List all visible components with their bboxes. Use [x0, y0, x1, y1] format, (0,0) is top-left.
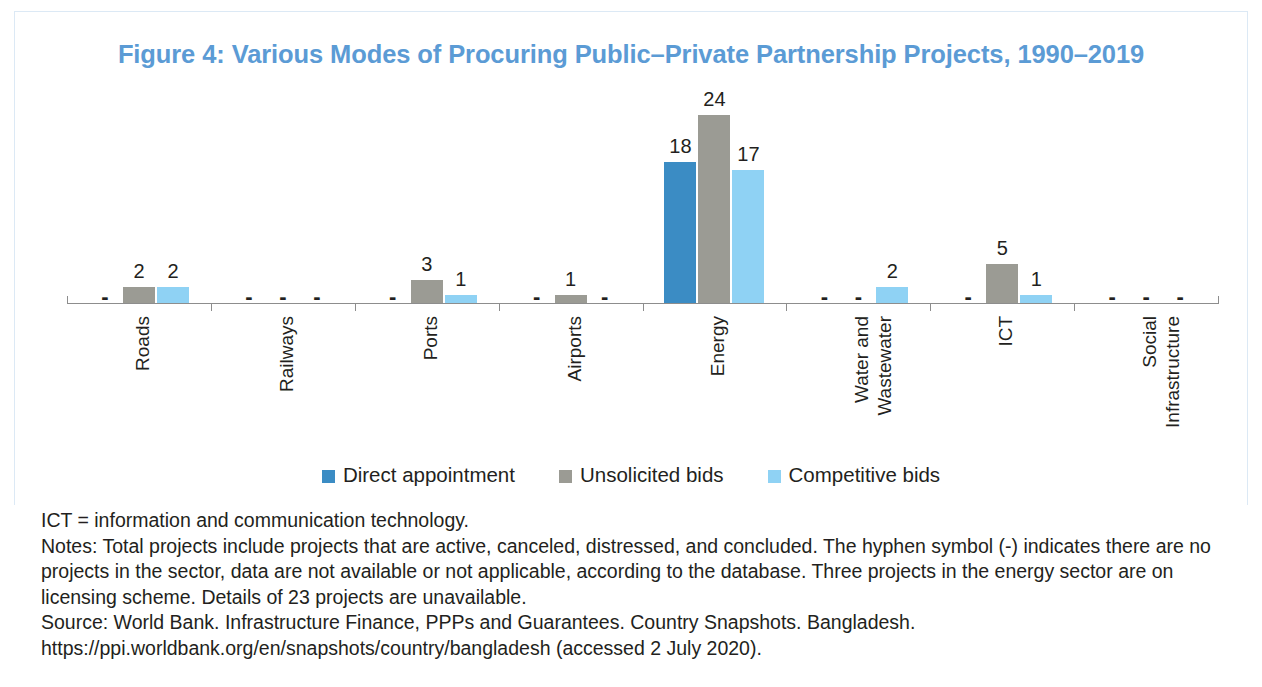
legend-item: Direct appointment: [322, 463, 515, 487]
bar-slot: -: [88, 80, 122, 303]
bar-slot: 5: [985, 80, 1019, 303]
bar-slot: 18: [663, 80, 697, 303]
category-label-line: Social: [1139, 316, 1161, 368]
legend-label: Competitive bids: [789, 463, 941, 487]
category-label-line: Railways: [276, 316, 298, 392]
bar-value-label: 2: [156, 260, 190, 283]
bar: [876, 287, 908, 303]
bar-slot: -: [232, 80, 266, 303]
missing-value-dash: -: [841, 286, 875, 308]
axis-tick: [786, 303, 787, 311]
bar-slot: -: [1095, 80, 1129, 303]
chart-legend: Direct appointmentUnsolicited bidsCompet…: [0, 463, 1262, 487]
category-label-line: Roads: [132, 316, 154, 371]
missing-value-dash: -: [1129, 286, 1163, 308]
bar: [1020, 295, 1052, 303]
bar-slot: -: [1163, 80, 1197, 303]
bar-slot: 3: [410, 80, 444, 303]
note-body: Notes: Total projects include projects t…: [41, 534, 1241, 611]
legend-swatch-icon: [559, 470, 572, 483]
bar-slot: -: [300, 80, 334, 303]
bar-value-label: 1: [444, 268, 478, 291]
bar-group: 182417: [663, 80, 765, 303]
chart-plot-area: -22----31-1-182417--2-51--- RoadsRailway…: [0, 0, 1262, 460]
missing-value-dash: -: [520, 286, 554, 308]
missing-value-dash: -: [376, 286, 410, 308]
bar: [445, 295, 477, 303]
missing-value-dash: -: [588, 286, 622, 308]
legend-item: Unsolicited bids: [559, 463, 724, 487]
axis-end-tick: [67, 296, 68, 304]
legend-swatch-icon: [322, 470, 335, 483]
axis-tick: [930, 303, 931, 311]
missing-value-dash: -: [1163, 286, 1197, 308]
legend-label: Direct appointment: [343, 463, 515, 487]
category-label-line: ICT: [995, 316, 1017, 347]
bar-value-label: 1: [554, 268, 588, 291]
figure-notes: ICT = information and communication tech…: [41, 508, 1241, 662]
missing-value-dash: -: [232, 286, 266, 308]
category-label-line: Infrastructure: [1162, 316, 1184, 428]
bar-slot: 2: [156, 80, 190, 303]
bar-slot: 1: [554, 80, 588, 303]
bar-slot: -: [807, 80, 841, 303]
category-label-line: Ports: [420, 316, 442, 360]
axis-tick: [355, 303, 356, 311]
bar-group: -51: [951, 80, 1053, 303]
bar-slot: -: [841, 80, 875, 303]
axis-tick: [499, 303, 500, 311]
category-label-line: Wastewater: [874, 316, 896, 416]
bar-slot: 2: [875, 80, 909, 303]
bar-group: -22: [88, 80, 190, 303]
bar-slot: -: [1129, 80, 1163, 303]
bar-slot: -: [951, 80, 985, 303]
missing-value-dash: -: [266, 286, 300, 308]
axis-end-tick: [1218, 296, 1219, 304]
category-label-line: Energy: [707, 316, 729, 376]
bar-value-label: 17: [731, 143, 765, 166]
missing-value-dash: -: [300, 286, 334, 308]
bar: [411, 280, 443, 303]
bar-group: --2: [807, 80, 909, 303]
bar: [986, 264, 1018, 303]
bar-slot: 1: [1019, 80, 1053, 303]
missing-value-dash: -: [807, 286, 841, 308]
bar-value-label: 1: [1019, 268, 1053, 291]
bar-slot: -: [520, 80, 554, 303]
missing-value-dash: -: [951, 286, 985, 308]
bar: [732, 170, 764, 303]
bar-slot: -: [376, 80, 410, 303]
bar-value-label: 18: [663, 135, 697, 158]
bar-value-label: 2: [122, 260, 156, 283]
bar-slot: 1: [444, 80, 478, 303]
bar-group: ---: [1095, 80, 1197, 303]
bar-group: -31: [376, 80, 478, 303]
note-abbreviation: ICT = information and communication tech…: [41, 508, 1241, 534]
bar: [123, 287, 155, 303]
bar: [157, 287, 189, 303]
bar-slot: 24: [697, 80, 731, 303]
bar-slot: 17: [731, 80, 765, 303]
axis-tick: [643, 303, 644, 311]
missing-value-dash: -: [1095, 286, 1129, 308]
bar: [664, 162, 696, 303]
bar-value-label: 5: [985, 237, 1019, 260]
bar: [555, 295, 587, 303]
legend-label: Unsolicited bids: [580, 463, 724, 487]
bar-value-label: 24: [697, 88, 731, 111]
bar: [698, 115, 730, 303]
category-label-line: Water and: [851, 316, 873, 403]
bar-group: ---: [232, 80, 334, 303]
bar-slot: -: [266, 80, 300, 303]
bar-value-label: 2: [875, 260, 909, 283]
category-label-line: Airports: [564, 316, 586, 381]
bar-slot: -: [588, 80, 622, 303]
legend-item: Competitive bids: [768, 463, 941, 487]
bar-value-label: 3: [410, 253, 444, 276]
bar-group: -1-: [520, 80, 622, 303]
axis-tick: [211, 303, 212, 311]
note-source: Source: World Bank. Infrastructure Finan…: [41, 610, 1241, 661]
bar-slot: 2: [122, 80, 156, 303]
axis-tick: [1074, 303, 1075, 311]
legend-swatch-icon: [768, 470, 781, 483]
